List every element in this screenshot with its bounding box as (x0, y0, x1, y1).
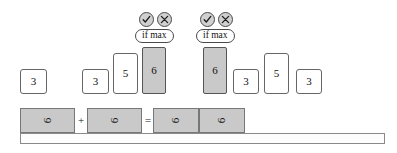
annotation-icon-group (200, 12, 233, 27)
value-box[interactable]: 3 (296, 69, 322, 94)
baseline-rail (20, 133, 385, 144)
if-max-condition-label: if max (196, 29, 235, 43)
value-box-highlighted[interactable]: 6 (203, 47, 227, 94)
annotation-icon-group (139, 12, 172, 27)
equation-tile[interactable]: 6 (20, 108, 75, 133)
value-box[interactable]: 3 (20, 69, 47, 94)
value-box-label: 5 (123, 68, 129, 79)
value-box-label: 3 (31, 76, 37, 87)
diagram-canvas: 33566353 if maxif max 6666+= (0, 0, 397, 153)
max-condition-annotation: if max (135, 12, 180, 44)
equation-tile[interactable]: 6 (199, 108, 245, 133)
if-max-condition-label: if max (135, 29, 174, 43)
plus-operator: + (75, 114, 87, 126)
equation-tile[interactable]: 6 (87, 108, 142, 133)
equation-tile[interactable]: 6 (153, 108, 199, 133)
check-circle-icon[interactable] (139, 12, 154, 27)
value-box[interactable]: 5 (264, 53, 289, 94)
equation-tile-glyph: 6 (171, 118, 182, 124)
value-box[interactable]: 3 (82, 69, 109, 94)
check-circle-icon[interactable] (200, 12, 215, 27)
x-circle-icon[interactable] (157, 12, 172, 27)
value-box[interactable]: 5 (113, 53, 138, 94)
equation-tile-glyph: 6 (42, 118, 53, 124)
value-box-label: 6 (212, 65, 218, 76)
equals-operator: = (142, 114, 154, 126)
value-box-highlighted[interactable]: 6 (142, 47, 166, 94)
value-box-label: 5 (274, 68, 280, 79)
equation-tile-glyph: 6 (217, 118, 228, 124)
x-circle-icon[interactable] (218, 12, 233, 27)
value-box-label: 3 (306, 76, 312, 87)
value-box-label: 6 (151, 65, 157, 76)
value-box[interactable]: 3 (233, 69, 259, 94)
value-box-label: 3 (93, 76, 99, 87)
max-condition-annotation: if max (196, 12, 241, 44)
equation-tile-glyph: 6 (109, 118, 120, 124)
value-box-label: 3 (243, 76, 249, 87)
